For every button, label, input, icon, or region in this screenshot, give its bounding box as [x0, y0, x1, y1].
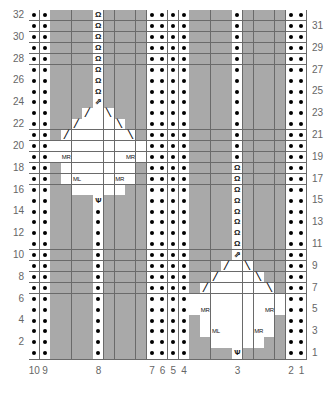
chart-cell — [72, 217, 83, 228]
chart-cell — [243, 185, 254, 196]
chart-cell — [275, 130, 286, 141]
purl-dot-icon — [32, 329, 36, 333]
purl-dot-icon — [43, 111, 47, 115]
chart-cell — [243, 152, 254, 163]
chart-cell — [115, 141, 126, 152]
chart-cell — [168, 75, 179, 86]
purl-dot-icon — [171, 199, 175, 203]
row-label: 32 — [4, 9, 24, 20]
chart-cell — [286, 272, 297, 283]
chart-cell: Ω — [232, 206, 243, 217]
purl-dot-icon — [299, 177, 303, 181]
purl-dot-icon — [171, 144, 175, 148]
chart-cell — [221, 119, 232, 130]
chart-cell — [179, 97, 190, 108]
chart-cell — [115, 239, 126, 250]
chart-cell — [40, 97, 51, 108]
purl-dot-icon — [43, 90, 47, 94]
chart-cell — [254, 185, 265, 196]
chart-cell — [50, 86, 61, 97]
chart-cell — [125, 326, 136, 337]
chart-cell — [147, 239, 158, 250]
chart-cell — [254, 108, 265, 119]
chart-cell — [275, 348, 286, 359]
chart-cell — [82, 228, 93, 239]
chart-cell — [72, 315, 83, 326]
chart-cell — [264, 163, 275, 174]
purl-dot-icon — [160, 220, 164, 224]
chart-cell — [157, 195, 168, 206]
chart-cell — [93, 119, 104, 130]
chart-cell — [200, 119, 211, 130]
row-label: 8 — [4, 271, 24, 282]
chart-cell — [254, 141, 265, 152]
purl-dot-icon — [150, 57, 154, 61]
chart-cell — [221, 250, 232, 261]
chart-cell — [104, 185, 115, 196]
chart-cell — [264, 65, 275, 76]
chart-cell — [286, 261, 297, 272]
purl-dot-icon — [289, 24, 293, 28]
purl-dot-icon — [299, 286, 303, 290]
chart-cell — [168, 97, 179, 108]
chart-cell — [296, 217, 307, 228]
chart-cell — [115, 130, 126, 141]
chart-cell — [147, 217, 158, 228]
chart-cell — [179, 294, 190, 305]
chart-cell — [29, 348, 40, 359]
chart-cell — [254, 130, 265, 141]
chart-cell — [40, 65, 51, 76]
chart-cell — [157, 21, 168, 32]
chart-cell — [72, 65, 83, 76]
chart-cell — [93, 304, 104, 315]
purl-dot-icon — [289, 210, 293, 214]
chart-cell — [179, 32, 190, 43]
chart-cell — [296, 304, 307, 315]
purl-dot-icon — [289, 111, 293, 115]
chart-cell: ╱ — [221, 261, 232, 272]
chart-cell — [136, 174, 147, 185]
chart-cell — [157, 283, 168, 294]
chart-cell — [82, 54, 93, 65]
purl-dot-icon — [299, 264, 303, 268]
purl-dot-icon — [32, 275, 36, 279]
chart-cell — [275, 304, 286, 315]
chart-cell — [296, 195, 307, 206]
chart-cell: Ω — [232, 239, 243, 250]
chart-cell — [115, 337, 126, 348]
purl-dot-icon — [32, 68, 36, 72]
row-label: 26 — [4, 74, 24, 85]
chart-cell — [72, 75, 83, 86]
chart-cell — [147, 75, 158, 86]
chart-cell — [168, 32, 179, 43]
chart-cell — [61, 348, 72, 359]
chart-cell — [50, 185, 61, 196]
chart-cell — [136, 75, 147, 86]
chart-cell — [168, 315, 179, 326]
chart-cell — [61, 294, 72, 305]
chart-cell — [125, 32, 136, 43]
chart-cell — [125, 174, 136, 185]
purl-dot-icon — [43, 264, 47, 268]
chart-cell — [50, 97, 61, 108]
chart-cell — [254, 283, 265, 294]
chart-cell — [125, 86, 136, 97]
chart-cell — [200, 97, 211, 108]
purl-dot-icon — [299, 111, 303, 115]
purl-dot-icon — [182, 340, 186, 344]
chart-cell — [243, 304, 254, 315]
row-label: 11 — [312, 238, 332, 249]
chart-cell — [147, 108, 158, 119]
chart-cell — [254, 228, 265, 239]
chart-cell — [125, 108, 136, 119]
chart-cell — [211, 195, 222, 206]
chart-cell — [179, 217, 190, 228]
purl-dot-icon — [160, 340, 164, 344]
chart-cell — [179, 130, 190, 141]
chart-cell — [179, 228, 190, 239]
chart-cell — [125, 10, 136, 21]
chart-cell — [275, 141, 286, 152]
chart-cell — [157, 163, 168, 174]
purl-dot-icon — [235, 133, 239, 137]
purl-dot-icon — [160, 155, 164, 159]
